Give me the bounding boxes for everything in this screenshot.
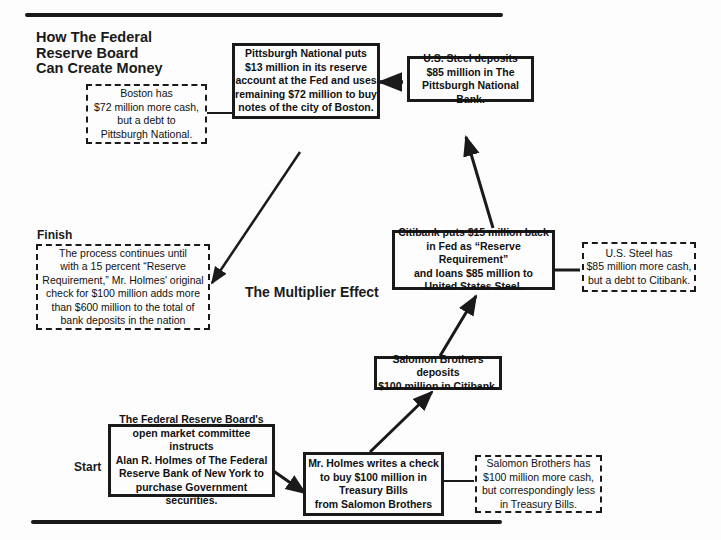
note-text: U.S. Steel has $85 million more cash, bu…: [586, 247, 691, 288]
note-finish: The process continues until with a 15 pe…: [36, 244, 210, 330]
node-start-fed-board: The Federal Reserve Board's open market …: [108, 424, 275, 497]
note-text: Salomon Brothers has $100 million more c…: [482, 457, 595, 511]
node-text: Salomon Brothers deposits $100 million i…: [377, 353, 499, 394]
node-salomon-deposits: Salomon Brothers deposits $100 million i…: [374, 356, 502, 390]
node-text: Mr. Holmes writes a check to buy $100 mi…: [308, 457, 439, 511]
arrow-start-to-holmes: [272, 470, 305, 493]
arrow-salomon-to-citibank: [440, 296, 476, 356]
note-text: Boston has $72 million more cash, but a …: [94, 87, 199, 141]
node-text: The Federal Reserve Board's open market …: [111, 413, 272, 508]
multiplier-effect-label: The Multiplier Effect: [245, 284, 379, 300]
node-pittsburgh-national: Pittsburgh National puts $13 million in …: [232, 43, 380, 119]
node-us-steel-deposits: U.S. Steel deposits $85 million in The P…: [407, 56, 534, 102]
arrow-citibank-to-ussteel: [466, 137, 493, 228]
note-text: The process continues until with a 15 pe…: [42, 247, 203, 328]
node-holmes-check: Mr. Holmes writes a check to buy $100 mi…: [303, 452, 444, 516]
start-label: Start: [74, 460, 101, 474]
node-citibank: Citibank puts $15 million back in Fed as…: [392, 230, 555, 290]
arrow-holmes-to-salomon: [370, 392, 432, 452]
note-boston: Boston has $72 million more cash, but a …: [86, 84, 207, 144]
node-text: U.S. Steel deposits $85 million in The P…: [410, 52, 531, 106]
finish-label: Finish: [37, 228, 72, 242]
note-us-steel: U.S. Steel has $85 million more cash, bu…: [582, 242, 696, 292]
node-text: Citibank puts $15 million back in Fed as…: [395, 226, 552, 294]
arrow-pittsburgh-to-finish: [212, 152, 300, 283]
note-salomon: Salomon Brothers has $100 million more c…: [475, 455, 602, 513]
node-text: Pittsburgh National puts $13 million in …: [235, 47, 377, 115]
